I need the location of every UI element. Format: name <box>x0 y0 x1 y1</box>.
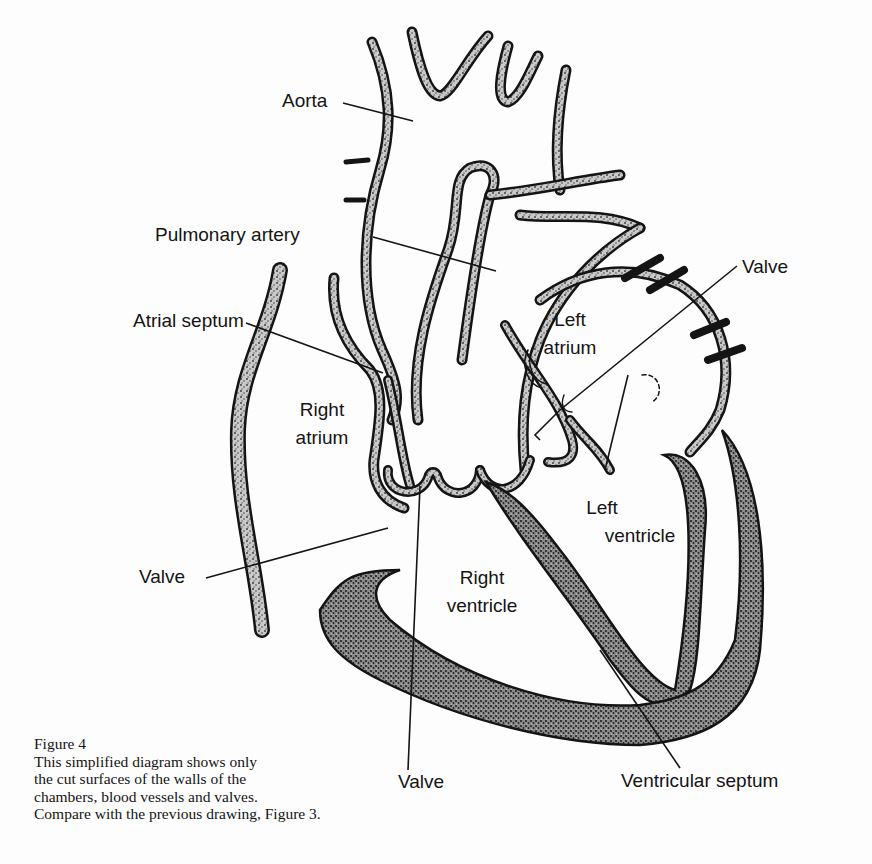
vena-cava-wall <box>238 270 280 630</box>
label-valve-mitral: Valve <box>742 257 788 276</box>
caption-line-3: chambers, blood vessels and valves. <box>34 788 321 806</box>
left-atrium-wall <box>505 258 742 470</box>
label-right-atrium: Right atrium <box>290 396 354 451</box>
label-left-atrium-line1: Left <box>554 309 586 330</box>
label-left-atrium-line2: atrium <box>544 337 597 358</box>
label-right-ventricle-line2: ventricle <box>447 595 518 616</box>
label-pulmonary-artery: Pulmonary artery <box>155 225 300 244</box>
leader-lines <box>206 103 737 770</box>
label-valve-tricuspid: Valve <box>139 567 185 586</box>
figure-4-heart-diagram: Aorta Pulmonary artery Atrial septum Val… <box>0 0 872 864</box>
label-left-ventricle-line1: Left <box>586 497 618 518</box>
label-right-atrium-line2: atrium <box>296 427 349 448</box>
label-right-ventricle-line1: Right <box>460 567 504 588</box>
label-right-ventricle: Right ventricle <box>432 564 532 619</box>
label-left-ventricle-line2: ventricle <box>605 525 676 546</box>
label-valve-pulmonary: Valve <box>398 772 444 791</box>
pulmonary-artery-wall <box>416 166 640 470</box>
label-atrial-septum: Atrial septum <box>133 311 244 330</box>
label-aorta: Aorta <box>282 91 327 110</box>
label-left-atrium: Left atrium <box>540 306 600 361</box>
figure-number: Figure 4 <box>34 735 321 753</box>
label-left-ventricle: Left ventricle <box>560 494 690 549</box>
figure-caption: Figure 4 This simplified diagram shows o… <box>34 735 321 823</box>
caption-line-1: This simplified diagram shows only <box>34 753 321 771</box>
caption-line-4: Compare with the previous drawing, Figur… <box>34 805 321 823</box>
caption-line-2: the cut surfaces of the walls of the <box>34 770 321 788</box>
label-ventricular-septum: Ventricular septum <box>621 771 778 790</box>
label-right-atrium-line1: Right <box>300 399 344 420</box>
